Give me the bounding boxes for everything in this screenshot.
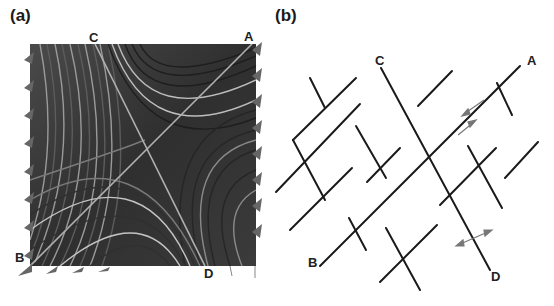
panel-b-point-c: C: [375, 53, 384, 68]
shear-arrows: [456, 100, 492, 246]
panel-b-point-a: A: [527, 53, 536, 68]
panel-b-point-b: B: [308, 255, 317, 270]
line-b-a: [320, 66, 520, 266]
panel-b-point-d: D: [491, 269, 500, 284]
line-network-diagram: [0, 0, 554, 306]
line-c-d: [381, 68, 490, 270]
